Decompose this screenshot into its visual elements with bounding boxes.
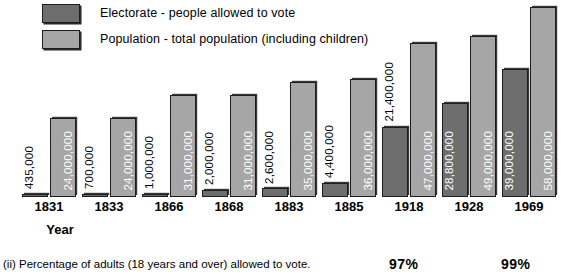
bar-value-label: 4,400,000 (324, 125, 336, 178)
bar-value-label: 47,000,000 (423, 131, 435, 191)
bar-value-label: 21,400,000 (384, 62, 396, 122)
x-axis-tick: 1883 (262, 199, 316, 214)
x-axis-tick: 1866 (142, 199, 196, 214)
bar-value-label: 24,000,000 (123, 131, 135, 191)
bar-group: 2,000,00031,000,000 (202, 0, 256, 197)
bar-value-label: 700,000 (84, 146, 96, 189)
bar-value-label: 2,600,000 (264, 131, 276, 184)
x-axis-tick: 1928 (442, 199, 496, 214)
bar-group: 21,400,00047,000,000 (382, 0, 436, 197)
x-axis-tick: 1833 (82, 199, 136, 214)
annotation-99-percent: 99% (501, 256, 531, 272)
bar-value-label: 2,000,000 (204, 132, 216, 185)
bar-group: 39,000,00058,000,000 (502, 0, 556, 197)
bar-electorate (382, 127, 408, 197)
bar-electorate (322, 183, 348, 197)
plot-area: 435,00024,000,000700,00024,000,0001,000,… (0, 0, 585, 197)
bar-group: 435,00024,000,000 (22, 0, 76, 197)
bar-value-label: 435,000 (24, 146, 36, 189)
x-axis-tick: 1885 (322, 199, 376, 214)
x-axis-tick: 1831 (22, 199, 76, 214)
bar-value-label: 31,000,000 (243, 131, 255, 191)
bar-value-label: 31,000,000 (183, 131, 195, 191)
bar-value-label: 49,000,000 (483, 131, 495, 191)
x-axis-tick: 1868 (202, 199, 256, 214)
chart-footer: (ii) Percentage of adults (18 years and … (0, 256, 585, 280)
bar-group: 700,00024,000,000 (82, 0, 136, 197)
bar-group: 2,600,00035,000,000 (262, 0, 316, 197)
bar-value-label: 58,000,000 (543, 131, 555, 191)
bar-group: 28,800,00049,000,000 (442, 0, 496, 197)
bar-value-label: 39,000,000 (504, 131, 516, 191)
x-axis-title: Year (30, 222, 90, 237)
x-axis-tick: 1918 (382, 199, 436, 214)
bar-value-label: 24,000,000 (63, 131, 75, 191)
x-axis: 183118331866186818831885191819281969 (0, 197, 585, 223)
footer-caption: (ii) Percentage of adults (18 years and … (3, 258, 310, 270)
x-axis-tick: 1969 (502, 199, 556, 214)
bar-group: 1,000,00031,000,000 (142, 0, 196, 197)
electorate-population-bar-chart: Electorate - people allowed to vote Popu… (0, 0, 585, 280)
bar-electorate (262, 188, 288, 197)
bar-value-label: 28,800,000 (444, 131, 456, 191)
bar-group: 4,400,00036,000,000 (322, 0, 376, 197)
bar-value-label: 36,000,000 (363, 131, 375, 191)
bar-value-label: 35,000,000 (303, 131, 315, 191)
bar-value-label: 1,000,000 (144, 136, 156, 189)
annotation-97-percent: 97% (389, 256, 419, 272)
